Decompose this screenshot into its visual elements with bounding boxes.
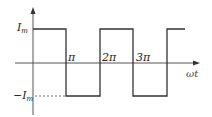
y-label-neg-im-sub: m [27,95,34,103]
y-label-neg-im-prefix: − [13,89,22,102]
x-tick-pi: π [68,52,75,63]
square-wave-diagram: Im −Im π 2π 3π ωt [0,0,212,117]
y-label-im-sub: m [21,27,28,35]
y-label-neg-im: −Im [13,90,33,103]
x-axis-label: ωt [186,69,198,79]
x-axis-arrow-icon [193,61,200,66]
x-tick-3pi: 3π [136,52,150,63]
y-axis-arrow-icon [31,7,36,14]
y-label-im: Im [17,22,28,35]
x-tick-2pi: 2π [102,52,116,63]
